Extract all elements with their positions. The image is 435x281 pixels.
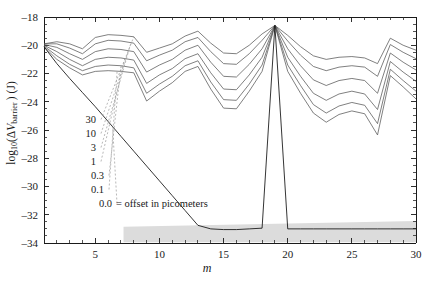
legend: 3010310.30.10.0= offset in picometers (86, 114, 208, 209)
x-tick-label: 5 (93, 248, 99, 260)
y-tick-label: –24 (21, 96, 39, 108)
legend-label-10: 10 (86, 128, 97, 139)
x-tick-label: 15 (218, 248, 230, 260)
legend-label-30: 30 (86, 114, 97, 125)
series-line-30 (44, 25, 416, 63)
legend-label-0p3: 0.3 (91, 170, 104, 181)
legend-leader-0p3 (109, 66, 121, 176)
legend-leader-lines (101, 37, 134, 204)
y-tick-label: –30 (21, 180, 39, 192)
noise-band-shape (124, 221, 416, 242)
y-tick-label: –18 (21, 11, 39, 23)
y-tick-label: –34 (21, 237, 39, 249)
x-tick-label: 30 (411, 248, 423, 260)
legend-label-0p0: 0.0 (99, 198, 112, 209)
y-tick-label: –32 (21, 209, 39, 221)
legend-leader-1 (101, 59, 125, 162)
series-line-1 (44, 25, 416, 109)
noise-band (124, 221, 416, 242)
legend-note: = offset in picometers (116, 198, 208, 209)
series-line-0p1 (44, 25, 416, 134)
chart-figure: 51015202530 –18–20–22–24–26–28–30–32–34 … (0, 0, 435, 281)
series-line-3 (44, 25, 416, 93)
x-axis-label: m (203, 261, 212, 275)
legend-label-1: 1 (91, 156, 96, 167)
x-tick-label: 25 (346, 248, 358, 260)
y-tick-label: –20 (21, 39, 39, 51)
series-line-0p3 (44, 25, 416, 123)
y-tick-label: –26 (21, 124, 39, 136)
legend-leader-0p0 (113, 127, 117, 204)
y-tick-label: –22 (21, 67, 39, 79)
y-tick-label: –28 (21, 152, 39, 164)
y-tick-labels: –18–20–22–24–26–28–30–32–34 (21, 11, 39, 249)
x-tick-labels: 51015202530 (93, 248, 422, 260)
x-tick-label: 20 (282, 248, 294, 260)
legend-label-3: 3 (91, 142, 96, 153)
chart-svg: 51015202530 –18–20–22–24–26–28–30–32–34 … (0, 0, 435, 281)
legend-label-0p1: 0.1 (91, 184, 104, 195)
x-tick-label: 10 (154, 248, 166, 260)
